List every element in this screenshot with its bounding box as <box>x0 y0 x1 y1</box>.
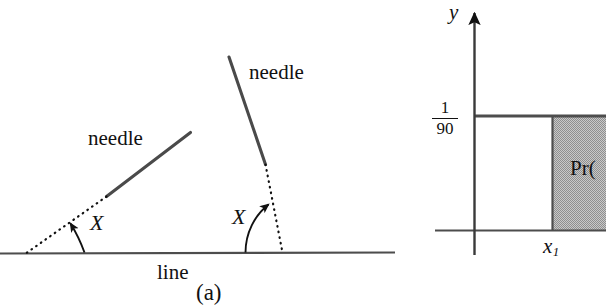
angle-arc-left <box>71 224 85 253</box>
probability-region-label: Pr( <box>570 158 596 179</box>
x-tick-subscript: 1 <box>552 244 559 259</box>
y-tick-label-one-ninetieth: 1 90 <box>432 99 458 138</box>
y-tick-numerator: 1 <box>432 99 458 118</box>
angle-arc-right <box>246 205 269 253</box>
baseline-line <box>0 253 395 254</box>
angle-label-left: X <box>90 212 103 234</box>
angle-label-right: X <box>232 206 245 228</box>
y-axis-label: y <box>449 2 458 23</box>
x-tick-label-x1: x1 <box>543 236 559 258</box>
baseline-label: line <box>157 262 189 283</box>
figure-vector-canvas <box>0 0 606 308</box>
needle-label-right: needle <box>249 62 304 83</box>
needle-label-left: needle <box>88 128 143 149</box>
left-panel-group <box>0 57 395 254</box>
figure-caption: (a) <box>196 281 222 304</box>
x-tick-base: x <box>543 234 552 258</box>
y-tick-denominator: 90 <box>432 119 458 138</box>
needle-right-dotted-extension <box>266 165 283 253</box>
right-panel-group <box>435 13 606 255</box>
figure-container: needle needle X X line (a) y 1 90 x1 Pr( <box>0 0 606 308</box>
